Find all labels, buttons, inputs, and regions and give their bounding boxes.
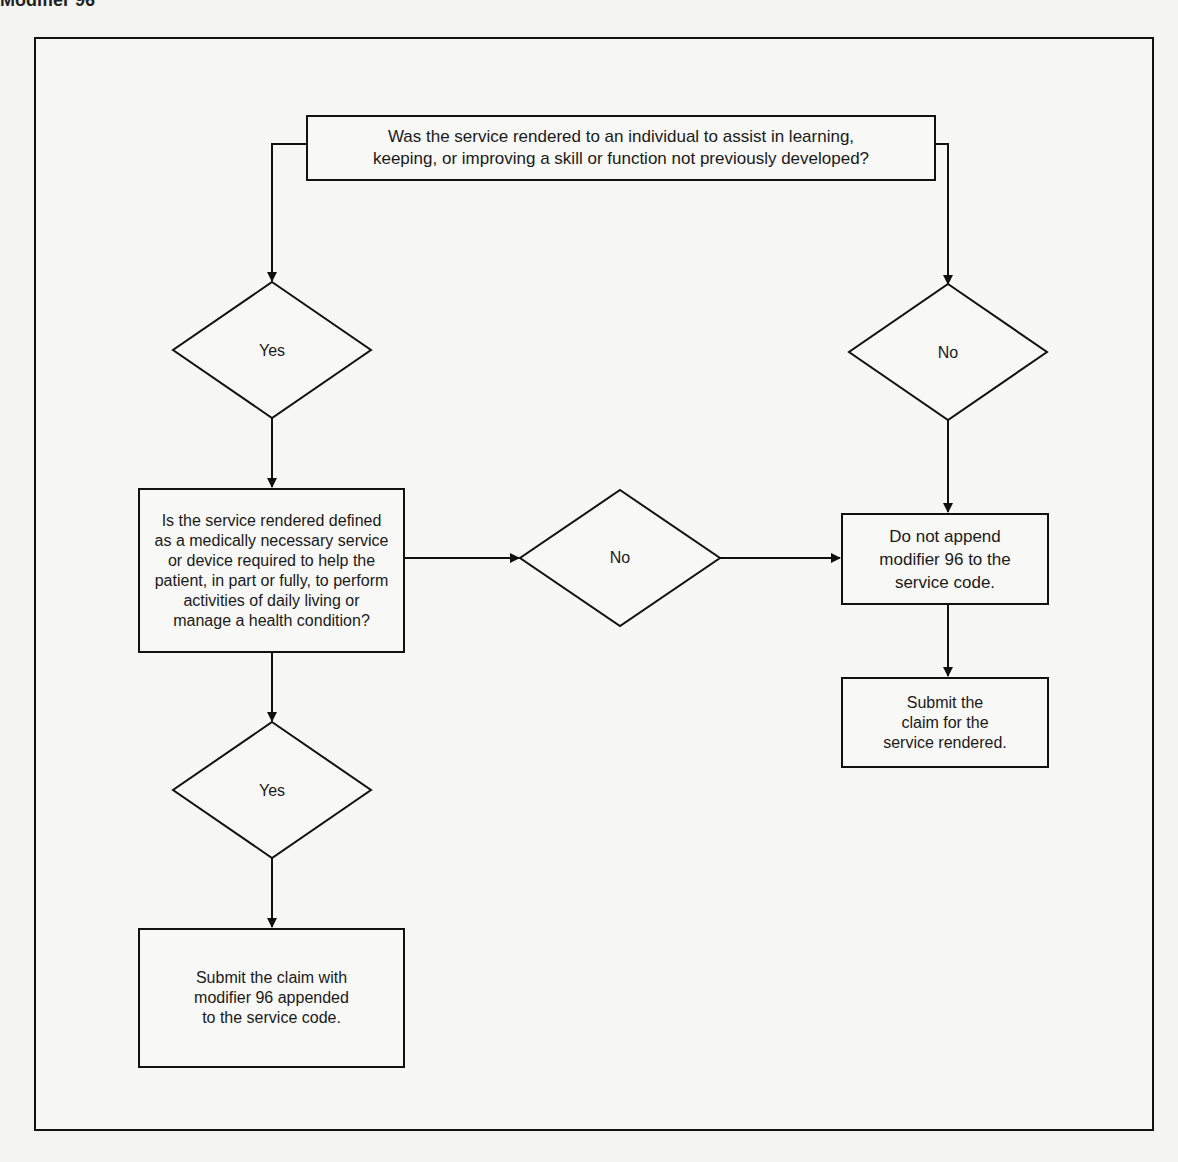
second-question-box: Is the service rendered defined as a med… <box>138 488 405 653</box>
connector-start-to-no <box>936 144 948 284</box>
decision-label-no-1: No <box>938 344 958 362</box>
submit-claim-plain-box: Submit the claim for the service rendere… <box>841 677 1049 768</box>
decision-label-no-2: No <box>610 549 630 567</box>
submit-claim-plain-text: Submit the claim for the service rendere… <box>883 693 1007 753</box>
start-question-box: Was the service rendered to an individua… <box>306 115 936 181</box>
decision-label-yes-2: Yes <box>259 782 285 800</box>
connector-start-to-yes <box>272 144 306 281</box>
start-question-text: Was the service rendered to an individua… <box>373 126 869 170</box>
second-question-text: Is the service rendered defined as a med… <box>155 511 389 631</box>
decision-label-yes-1: Yes <box>259 342 285 360</box>
do-not-append-box: Do not append modifier 96 to the service… <box>841 513 1049 605</box>
submit-claim-modifier-text: Submit the claim with modifier 96 append… <box>194 968 349 1028</box>
submit-claim-modifier-box: Submit the claim with modifier 96 append… <box>138 928 405 1068</box>
do-not-append-text: Do not append modifier 96 to the service… <box>879 525 1010 594</box>
